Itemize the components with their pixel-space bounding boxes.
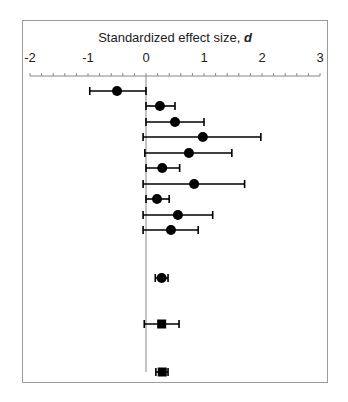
- x-tick-label: 1: [200, 50, 207, 65]
- x-tick-label: 0: [142, 50, 149, 65]
- x-tick-label: -2: [24, 50, 36, 65]
- circle-marker: [198, 132, 208, 142]
- square-marker: [157, 320, 166, 329]
- x-tick-label: -1: [82, 50, 94, 65]
- square-marker: [158, 368, 167, 377]
- circle-marker: [166, 225, 176, 235]
- circle-marker: [157, 163, 167, 173]
- circle-marker: [155, 101, 165, 111]
- chart-title: Standardized effect size, d: [98, 30, 253, 45]
- x-tick-label: 3: [316, 50, 323, 65]
- circle-marker: [152, 194, 162, 204]
- circle-marker: [184, 148, 194, 158]
- circle-marker: [157, 273, 167, 283]
- x-tick-label: 2: [258, 50, 265, 65]
- circle-marker: [112, 86, 122, 96]
- circle-marker: [189, 179, 199, 189]
- circle-marker: [173, 210, 183, 220]
- circle-marker: [170, 117, 180, 127]
- forest-plot: Standardized effect size, d -2-10123: [0, 0, 348, 402]
- plot-frame: [23, 21, 328, 383]
